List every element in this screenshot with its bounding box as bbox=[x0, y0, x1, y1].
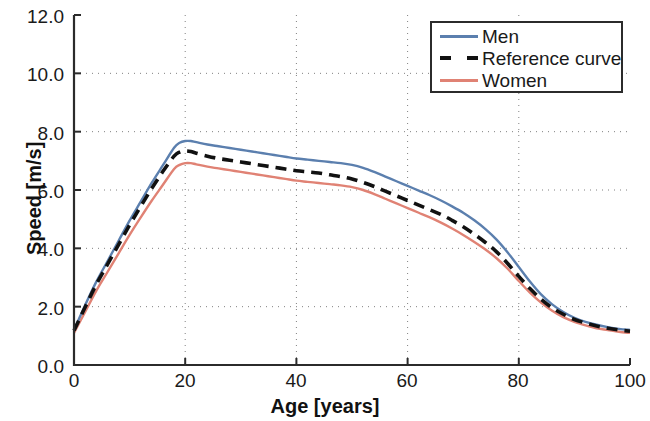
y-axis-title: Speed [m/s] bbox=[24, 142, 44, 255]
x-axis-title: Age [years] bbox=[0, 396, 650, 416]
xtick-label-0: 0 bbox=[54, 371, 94, 390]
legend-swatch-men-icon bbox=[438, 26, 480, 46]
chart-figure: 12.0 10.0 8.0 6.0 4.0 2.0 0.0 0 20 40 60… bbox=[0, 0, 650, 421]
legend-swatch-reference-icon bbox=[438, 48, 480, 68]
legend: Men Reference curve Women bbox=[430, 21, 623, 93]
legend-swatch-women-icon bbox=[438, 70, 480, 90]
legend-label-reference-curve: Reference curve bbox=[482, 49, 621, 68]
xtick-label-60: 60 bbox=[387, 371, 427, 390]
xtick-label-40: 40 bbox=[276, 371, 316, 390]
series-lines bbox=[74, 141, 630, 333]
xtick-label-80: 80 bbox=[498, 371, 538, 390]
ytick-label-12: 12.0 bbox=[4, 7, 64, 26]
ytick-label-10: 10.0 bbox=[4, 65, 64, 84]
series-line-women bbox=[74, 163, 630, 333]
ytick-label-8: 8.0 bbox=[4, 124, 64, 143]
legend-item-men[interactable]: Men bbox=[438, 25, 519, 47]
ytick-label-2: 2.0 bbox=[4, 299, 64, 318]
series-line-reference-curve bbox=[74, 151, 630, 331]
xtick-label-20: 20 bbox=[165, 371, 205, 390]
legend-label-women: Women bbox=[482, 71, 547, 90]
xtick-label-100: 100 bbox=[609, 371, 650, 390]
legend-label-men: Men bbox=[482, 27, 519, 46]
legend-item-reference-curve[interactable]: Reference curve bbox=[438, 47, 621, 69]
legend-item-women[interactable]: Women bbox=[438, 69, 547, 91]
